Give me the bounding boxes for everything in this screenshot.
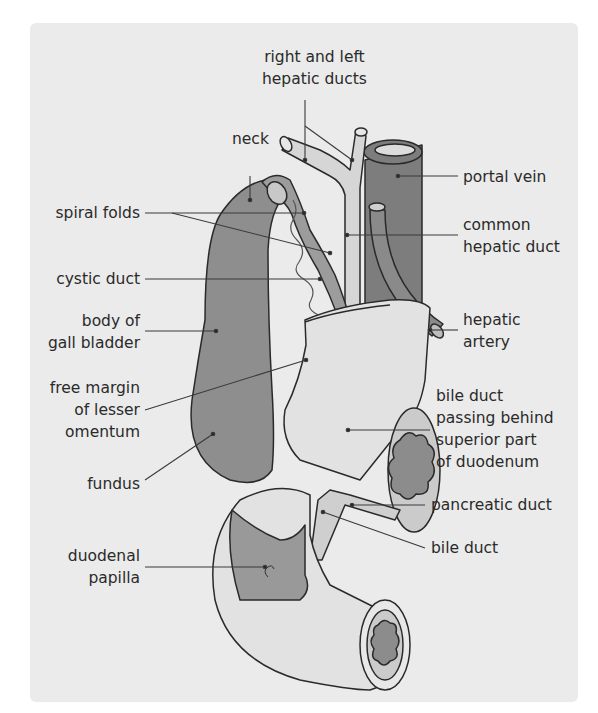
label-line: of lesser	[50, 399, 140, 421]
label-line: duodenal	[68, 545, 140, 567]
label-line: neck	[232, 128, 269, 150]
label-line: passing behind	[436, 407, 554, 429]
label-hepatic-artery: hepatic artery	[463, 309, 521, 353]
label-line: pancreatic duct	[431, 494, 552, 516]
label-line: free margin	[50, 377, 140, 399]
label-line: spiral folds	[56, 202, 141, 224]
label-free-margin-lesser-omentum: free margin of lesser omentum	[50, 377, 140, 443]
label-line: hepatic duct	[463, 236, 560, 258]
label-line: gall bladder	[48, 332, 140, 354]
label-neck: neck	[232, 128, 269, 150]
label-right-left-hepatic-ducts: right and left hepatic ducts	[262, 46, 367, 90]
label-bile-duct: bile duct	[431, 537, 498, 559]
label-line: artery	[463, 331, 521, 353]
label-line: cystic duct	[56, 268, 140, 290]
label-bile-duct-behind-duodenum: bile duct passing behind superior part o…	[436, 385, 554, 473]
label-line: bile duct	[436, 385, 554, 407]
label-spiral-folds: spiral folds	[56, 202, 141, 224]
label-pancreatic-duct: pancreatic duct	[431, 494, 552, 516]
label-line: omentum	[50, 421, 140, 443]
biliary-anatomy-illustration	[0, 0, 598, 713]
label-line: hepatic	[463, 309, 521, 331]
label-cystic-duct: cystic duct	[56, 268, 140, 290]
descending-duodenum-shape	[213, 489, 410, 690]
label-line: of duodenum	[436, 451, 554, 473]
label-line: portal vein	[463, 166, 546, 188]
label-line: papilla	[68, 567, 140, 589]
label-portal-vein: portal vein	[463, 166, 546, 188]
label-common-hepatic-duct: common hepatic duct	[463, 214, 560, 258]
label-line: hepatic ducts	[262, 68, 367, 90]
label-line: bile duct	[431, 537, 498, 559]
label-line: common	[463, 214, 560, 236]
label-line: right and left	[262, 46, 367, 68]
label-fundus: fundus	[87, 473, 140, 495]
label-body-of-gall-bladder: body of gall bladder	[48, 310, 140, 354]
label-line: fundus	[87, 473, 140, 495]
label-duodenal-papilla: duodenal papilla	[68, 545, 140, 589]
pancreatic-and-bile-duct-shape	[310, 490, 400, 560]
label-line: body of	[48, 310, 140, 332]
label-line: superior part	[436, 429, 554, 451]
